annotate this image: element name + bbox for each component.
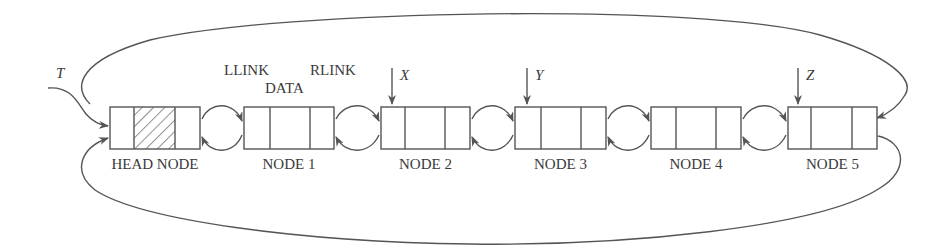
node-label: NODE 2 (399, 156, 452, 172)
node-label: NODE 4 (670, 156, 723, 172)
node-box (515, 107, 606, 149)
data-label: DATA (265, 80, 304, 96)
pointer-t-arrow (48, 88, 108, 126)
node-label: HEAD NODE (111, 156, 198, 172)
node-label: NODE 1 (263, 156, 316, 172)
llink-arrow (202, 135, 242, 150)
node-n3: NODE 3 (515, 107, 606, 172)
bottom-wrap-link (82, 136, 901, 244)
rlink-arrow (336, 106, 379, 121)
node-box (381, 107, 470, 149)
node-label: NODE 5 (806, 156, 859, 172)
node-n4: NODE 4 (651, 107, 741, 172)
rlink-label: RLINK (310, 62, 356, 78)
hatched-data-field (134, 107, 175, 149)
llink-arrow (608, 135, 649, 150)
pointer-t-label: T (56, 65, 66, 81)
node-n2: NODE 2 (381, 107, 470, 172)
node-label: NODE 3 (534, 156, 587, 172)
node-n1: NODE 1 (244, 107, 334, 172)
node-head: HEAD NODE (110, 107, 200, 172)
llink-arrow (336, 135, 379, 150)
node-box (788, 107, 877, 149)
node-box (651, 107, 741, 149)
linked-list-diagram: T HEAD NODENODE 1NODE 2NODE 3NODE 4NODE … (0, 0, 948, 252)
pointer-y-label: Y (535, 67, 545, 83)
rlink-arrow (608, 106, 649, 121)
top-wrap-link (82, 14, 907, 118)
rlink-arrow (743, 106, 786, 121)
pointer-x-label: X (399, 67, 410, 83)
llink-label: LLINK (224, 62, 269, 78)
pointer-z-label: Z (806, 67, 815, 83)
llink-arrow (472, 135, 513, 150)
rlink-arrow (472, 106, 513, 121)
llink-arrow (743, 135, 786, 150)
rlink-arrow (202, 106, 242, 121)
node-n5: NODE 5 (788, 107, 877, 172)
node-box (244, 107, 334, 149)
